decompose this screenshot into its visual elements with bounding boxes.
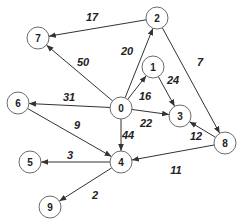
edge-arrow-line: [46, 45, 112, 101]
edge-0-to-3: [132, 109, 169, 114]
edge-weight-label: 22: [139, 117, 152, 129]
node-8: 8: [214, 132, 236, 154]
edge-weight-label: 12: [190, 130, 202, 142]
edge-arrow-line: [59, 168, 111, 201]
node-6: 6: [7, 92, 29, 114]
node-label: 0: [118, 103, 124, 114]
node-label: 6: [15, 98, 21, 109]
edge-weight-label: 31: [63, 91, 75, 103]
node-9: 9: [39, 196, 61, 218]
edge-weight-label: 3: [67, 149, 73, 161]
node-label: 3: [177, 111, 183, 122]
edge-4-to-9: [59, 168, 111, 201]
node-5: 5: [19, 151, 41, 173]
edge-0-to-6: [29, 104, 110, 108]
edge-weight-label: 17: [86, 11, 99, 23]
edge-weight-label: 7: [197, 56, 204, 68]
edge-weight-label: 11: [170, 164, 181, 176]
node-label: 2: [154, 13, 160, 24]
edge-arrow-line: [29, 104, 110, 108]
node-2: 2: [146, 7, 168, 29]
edge-weight-label: 20: [120, 45, 134, 57]
edge-arrow-line: [132, 145, 214, 160]
edge-arrow-line: [132, 109, 169, 114]
edge-8-to-4: [132, 145, 214, 160]
edge-weight-label: 24: [166, 74, 179, 86]
node-label: 4: [118, 157, 124, 168]
node-label: 8: [222, 138, 228, 149]
edge-weight-label: 2: [91, 189, 98, 201]
edge-weight-label: 9: [74, 119, 81, 131]
edge-weight-label: 16: [139, 90, 152, 102]
node-label: 7: [35, 33, 41, 44]
node-3: 3: [169, 105, 191, 127]
node-label: 9: [47, 202, 53, 213]
node-label: 1: [150, 62, 156, 73]
node-7: 7: [27, 27, 49, 49]
nodes-layer: 0123456789: [7, 7, 236, 218]
edge-weight-label: 44: [121, 129, 134, 141]
edge-weight-label: 50: [77, 56, 90, 68]
node-4: 4: [110, 151, 132, 173]
edge-0-to-7: [46, 45, 112, 101]
node-label: 5: [27, 157, 33, 168]
node-1: 1: [142, 56, 164, 78]
graph-diagram: 175020716243122944121132 0123456789: [0, 0, 242, 224]
node-0: 0: [110, 97, 132, 119]
